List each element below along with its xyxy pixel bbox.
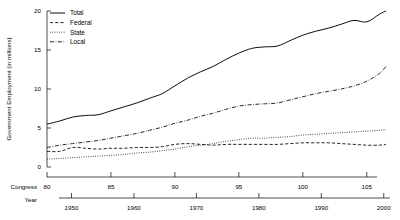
series-line-local xyxy=(47,66,386,147)
congress-axis: 80859095100105 Congress xyxy=(11,172,377,190)
chart-container: Government Employment (in millions) 0510… xyxy=(0,0,400,220)
year-tick-label: 1970 xyxy=(190,204,204,211)
y-tick-label: 15 xyxy=(34,46,41,53)
y-axis: 05101520 xyxy=(34,7,51,170)
congress-tick-label: 90 xyxy=(171,183,178,190)
y-tick-label: 0 xyxy=(38,163,42,170)
congress-axis-label: Congress xyxy=(11,183,37,190)
legend-label-federal: Federal xyxy=(70,19,92,26)
government-employment-line-chart: Government Employment (in millions) 0510… xyxy=(0,0,400,220)
legend-label-state: State xyxy=(70,29,85,36)
series-line-federal xyxy=(47,143,386,152)
year-axis: 195019601970198019902000 Year xyxy=(24,193,391,211)
year-tick-label: 1980 xyxy=(252,204,266,211)
year-tick-label: 2000 xyxy=(377,204,391,211)
congress-tick-label: 80 xyxy=(44,183,51,190)
congress-tick-label: 95 xyxy=(235,183,242,190)
y-tick-label: 5 xyxy=(38,124,42,131)
year-axis-ticks: 195019601970198019902000 xyxy=(65,193,392,211)
congress-axis-ticks: 80859095100105 xyxy=(44,172,373,190)
y-tick-label: 20 xyxy=(34,7,41,14)
series-line-total xyxy=(47,11,386,124)
year-tick-label: 1990 xyxy=(314,204,328,211)
congress-tick-label: 85 xyxy=(108,183,115,190)
congress-tick-label: 100 xyxy=(298,183,309,190)
series-group xyxy=(47,11,386,159)
series-line-state xyxy=(47,130,386,160)
y-axis-ticks: 05101520 xyxy=(34,7,51,170)
congress-tick-label: 105 xyxy=(362,183,373,190)
y-tick-label: 10 xyxy=(34,85,41,92)
legend-label-total: Total xyxy=(70,9,84,16)
chart-legend: TotalFederalStateLocal xyxy=(50,9,92,45)
legend-label-local: Local xyxy=(70,38,85,45)
y-axis-label: Government Employment (in millions) xyxy=(5,37,12,140)
year-tick-label: 1950 xyxy=(65,204,79,211)
year-tick-label: 1960 xyxy=(127,204,141,211)
year-axis-label: Year xyxy=(24,196,37,203)
